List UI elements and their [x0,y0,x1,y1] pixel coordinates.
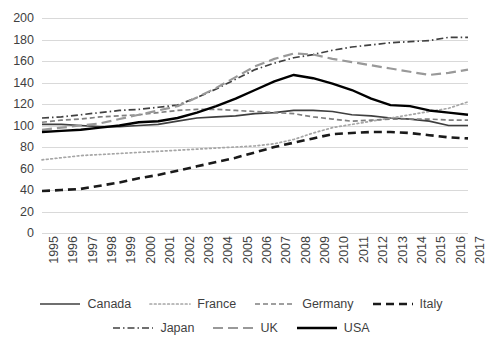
x-axis-tick-label: 2015 [434,236,448,264]
legend-item-germany[interactable]: Germany [254,297,353,311]
y-axis-tick-label: 180 [13,33,34,47]
x-axis-tick-label: 2005 [241,236,255,264]
y-axis-tick-label: 120 [13,97,34,111]
legend-item-usa[interactable]: USA [296,321,370,335]
legend-item-france[interactable]: France [149,297,236,311]
legend-label: France [197,297,236,311]
x-axis-tick-label: 2008 [299,236,313,264]
legend-item-uk[interactable]: UK [212,321,277,335]
series-layer [42,18,468,233]
x-axis-tick-label: 2003 [202,236,216,264]
legend-row: CanadaFranceGermanyItaly [0,292,482,316]
x-axis-tick-label: 2016 [454,236,468,264]
x-axis-tick-label: 1999 [124,236,138,264]
y-axis: 020406080100120140160180200 [0,0,40,251]
y-axis-tick-label: 200 [13,11,34,25]
legend-label: Italy [420,297,443,311]
legend-label: Canada [87,297,131,311]
y-axis-tick-label: 100 [13,119,34,133]
x-axis-tick-label: 2009 [318,236,332,264]
x-axis-tick-label: 1995 [47,236,61,264]
x-axis-tick-label: 2017 [473,236,487,264]
legend-label: Germany [302,297,353,311]
legend-item-italy[interactable]: Italy [372,297,443,311]
x-axis-tick-label: 2013 [396,236,410,264]
x-axis-tick-label: 1998 [105,236,119,264]
legend-swatch-italy-icon [372,298,414,310]
series-line-usa [42,75,468,132]
y-axis-tick-label: 60 [20,162,34,176]
legend-label: UK [260,321,277,335]
plot-area [42,18,468,233]
y-axis-tick-label: 20 [20,205,34,219]
x-axis-tick-label: 2006 [260,236,274,264]
x-axis-tick-label: 1997 [86,236,100,264]
y-axis-tick-label: 80 [20,140,34,154]
legend-swatch-germany-icon [254,298,296,310]
legend-label: USA [344,321,370,335]
y-axis-tick-label: 40 [20,183,34,197]
legend-swatch-usa-icon [296,322,338,334]
y-axis-tick-label: 140 [13,76,34,90]
gridline [42,233,468,234]
legend-swatch-france-icon [149,298,191,310]
y-axis-tick-label: 160 [13,54,34,68]
x-axis-tick-label: 1996 [66,236,80,264]
legend-swatch-canada-icon [39,298,81,310]
x-axis: 1995199619971998199920002001200220032004… [42,236,468,286]
legend-swatch-japan-icon [112,322,154,334]
x-axis-tick-label: 2012 [376,236,390,264]
legend-item-japan[interactable]: Japan [112,321,194,335]
series-line-italy [42,132,468,191]
x-axis-tick-label: 2000 [144,236,158,264]
x-axis-tick-label: 2011 [357,236,371,263]
legend-row: JapanUKUSA [0,316,482,340]
chart-legend: CanadaFranceGermanyItalyJapanUKUSA [0,292,482,344]
legend-item-canada[interactable]: Canada [39,297,131,311]
series-line-france [42,102,468,160]
legend-swatch-uk-icon [212,322,254,334]
x-axis-tick-label: 2002 [183,236,197,264]
x-axis-tick-label: 2010 [337,236,351,264]
x-axis-tick-label: 2007 [279,236,293,264]
legend-label: Japan [160,321,194,335]
x-axis-tick-label: 2004 [221,236,235,264]
x-axis-tick-label: 2014 [415,236,429,264]
x-axis-tick-label: 2001 [163,236,177,264]
y-axis-tick-label: 0 [27,226,34,240]
